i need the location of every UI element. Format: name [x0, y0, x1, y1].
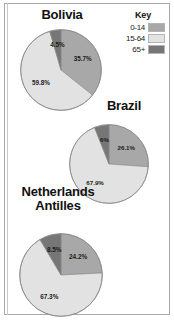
pie-slice-label: 35.7%: [74, 55, 92, 62]
legend-swatch: [148, 34, 165, 43]
pie-slice-label: 6%: [100, 136, 109, 143]
pie-slice-label: 4.5%: [50, 41, 65, 48]
legend-swatch: [148, 23, 165, 32]
chart-title-bolivia: Bolivia: [16, 8, 108, 22]
legend-item: 65+: [113, 45, 165, 54]
legend-item-label: 65+: [132, 45, 145, 54]
legend-item-label: 15-64: [126, 34, 145, 43]
pie-chart-figure: Bolivia 35.7%59.8%4.5% Brazil 26.1%67.9%…: [0, 0, 174, 326]
pie-slice-label: 26.1%: [118, 144, 136, 151]
legend-title: Key: [121, 10, 165, 20]
legend-item: 0-14: [113, 23, 165, 32]
pie-chart-netherlands-antilles: 24.2%67.3%8.5%: [18, 232, 104, 318]
legend-rows: 0-1415-6465+: [113, 23, 165, 54]
pie-slice-label: 24.2%: [69, 253, 88, 260]
chart-title-brazil: Brazil: [86, 99, 162, 113]
figure-inner-rule: [7, 3, 8, 315]
pie-svg-netherlands-antilles: 24.2%67.3%8.5%: [18, 232, 104, 318]
pie-slice-label: 8.5%: [47, 246, 62, 253]
pie-slice-label: 59.8%: [32, 79, 50, 86]
legend-item: 15-64: [113, 34, 165, 43]
legend: Key 0-1415-6465+: [113, 10, 165, 56]
chart-title-netherlands-antilles: Netherlands Antilles: [8, 185, 108, 212]
legend-item-label: 0-14: [130, 23, 145, 32]
legend-swatch: [148, 45, 165, 54]
pie-slice-label: 67.3%: [40, 293, 59, 300]
